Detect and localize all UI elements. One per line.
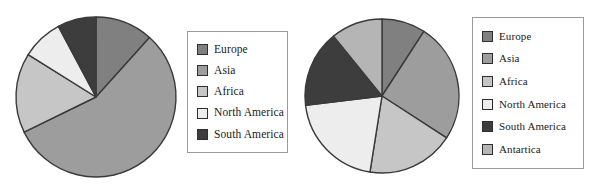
pie-chart-1-plot xyxy=(13,14,179,180)
pie-chart-2-plot xyxy=(302,16,462,176)
legend-item[interactable]: South America xyxy=(197,129,280,141)
legend-items: Europe Asia Africa North America South A… xyxy=(197,39,280,145)
legend-swatch-south-america xyxy=(197,129,208,140)
legend-label: South America xyxy=(214,129,284,141)
legend-label: Antartica xyxy=(499,144,541,155)
legend-swatch-europe xyxy=(482,31,493,42)
pie-slice[interactable] xyxy=(306,96,382,172)
legend-label: North America xyxy=(499,99,566,110)
pie-chart-1-slices xyxy=(16,17,176,177)
legend-item[interactable]: Europe xyxy=(197,44,280,56)
legend-label: Asia xyxy=(499,53,520,64)
legend-label: North America xyxy=(214,107,284,119)
legend-swatch-africa xyxy=(197,86,208,97)
legend-swatch-south-america xyxy=(482,121,493,132)
legend-label: Africa xyxy=(499,76,528,87)
pie-chart-2-legend: Europe Asia Africa North America South A… xyxy=(472,17,584,169)
legend-item[interactable]: North America xyxy=(482,99,576,110)
legend-swatch-europe xyxy=(197,44,208,55)
legend-label: South America xyxy=(499,121,566,132)
pie-chart-1-legend: Europe Asia Africa North America South A… xyxy=(187,31,288,153)
pie-chart-1-figure: Europe Asia Africa North America South A… xyxy=(0,0,295,185)
legend-swatch-antartica xyxy=(482,144,493,155)
legend-item[interactable]: Asia xyxy=(197,65,280,77)
legend-item[interactable]: Antartica xyxy=(482,144,576,155)
pie-chart-2-svg xyxy=(302,16,462,176)
legend-item[interactable]: Africa xyxy=(482,76,576,87)
legend-item[interactable]: Europe xyxy=(482,31,576,42)
legend-swatch-asia xyxy=(482,53,493,64)
legend-label: Europe xyxy=(499,31,531,42)
legend-swatch-north-america xyxy=(197,108,208,119)
pie-chart-2-slices xyxy=(305,19,459,173)
legend-swatch-africa xyxy=(482,76,493,87)
figure-canvas: Europe Asia Africa North America South A… xyxy=(0,0,589,185)
legend-label: Africa xyxy=(214,86,244,98)
legend-items: Europe Asia Africa North America South A… xyxy=(482,25,576,161)
legend-item[interactable]: North America xyxy=(197,107,280,119)
legend-item[interactable]: Africa xyxy=(197,86,280,98)
legend-item[interactable]: South America xyxy=(482,121,576,132)
legend-label: Europe xyxy=(214,44,248,56)
legend-swatch-asia xyxy=(197,65,208,76)
legend-swatch-north-america xyxy=(482,99,493,110)
legend-label: Asia xyxy=(214,65,235,77)
pie-chart-2-figure: Europe Asia Africa North America South A… xyxy=(292,0,589,185)
pie-chart-1-svg xyxy=(13,14,179,180)
legend-item[interactable]: Asia xyxy=(482,53,576,64)
